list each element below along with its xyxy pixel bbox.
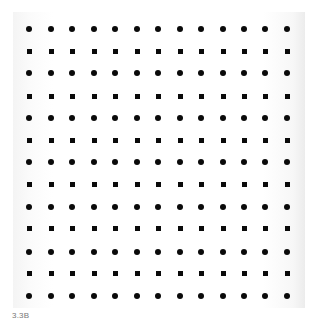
dot-mark [284, 204, 290, 210]
square-mark [242, 271, 247, 276]
dot-mark [177, 26, 183, 32]
dot-mark [48, 249, 54, 255]
square-mark [49, 182, 54, 187]
square-mark [242, 94, 247, 99]
square-mark [263, 94, 268, 99]
square-mark [242, 226, 247, 231]
square-mark [27, 94, 32, 99]
square-mark [70, 182, 75, 187]
dot-mark [220, 293, 226, 299]
dot-mark [198, 159, 204, 165]
square-mark [199, 182, 204, 187]
dot-mark [262, 115, 268, 121]
square-mark [263, 49, 268, 54]
square-mark [156, 49, 161, 54]
square-mark [135, 226, 140, 231]
dot-mark [220, 159, 226, 165]
dot-mark [262, 293, 268, 299]
square-mark [285, 138, 290, 143]
dot-mark [241, 115, 247, 121]
dot-mark [177, 293, 183, 299]
square-mark [135, 49, 140, 54]
square-mark [92, 138, 97, 143]
dot-mark [177, 159, 183, 165]
dot-mark [26, 293, 32, 299]
dot-mark [112, 26, 118, 32]
square-mark [263, 182, 268, 187]
square-mark [221, 49, 226, 54]
dot-mark [69, 204, 75, 210]
square-mark [242, 182, 247, 187]
dot-mark [198, 249, 204, 255]
dot-mark [26, 204, 32, 210]
square-mark [285, 226, 290, 231]
dot-mark [155, 293, 161, 299]
square-mark [135, 271, 140, 276]
square-mark [221, 271, 226, 276]
square-mark [27, 138, 32, 143]
dot-mark [48, 204, 54, 210]
dot-mark [155, 26, 161, 32]
square-mark [113, 182, 118, 187]
dot-mark [69, 293, 75, 299]
square-mark [178, 182, 183, 187]
square-mark [221, 94, 226, 99]
square-mark [285, 271, 290, 276]
dot-mark [134, 293, 140, 299]
dot-mark [241, 26, 247, 32]
dot-mark [284, 293, 290, 299]
dot-mark [262, 159, 268, 165]
dot-mark [134, 115, 140, 121]
square-mark [178, 271, 183, 276]
square-mark [49, 138, 54, 143]
square-mark [49, 271, 54, 276]
square-mark [285, 94, 290, 99]
dot-mark [177, 249, 183, 255]
dot-mark [262, 249, 268, 255]
dot-mark [48, 293, 54, 299]
dot-mark [177, 115, 183, 121]
square-mark [113, 138, 118, 143]
square-mark [92, 271, 97, 276]
dot-mark [26, 249, 32, 255]
dot-mark [155, 159, 161, 165]
dot-mark [284, 115, 290, 121]
dot-mark [198, 70, 204, 76]
square-mark [113, 271, 118, 276]
square-mark [70, 94, 75, 99]
dot-mark [220, 26, 226, 32]
dot-mark [91, 115, 97, 121]
dot-mark [134, 249, 140, 255]
square-mark [92, 182, 97, 187]
dot-mark [241, 293, 247, 299]
square-mark [70, 138, 75, 143]
dot-mark [112, 70, 118, 76]
square-mark [178, 94, 183, 99]
square-mark [156, 138, 161, 143]
dot-mark [177, 204, 183, 210]
square-mark [92, 49, 97, 54]
square-mark [221, 138, 226, 143]
square-mark [156, 94, 161, 99]
dot-mark [284, 249, 290, 255]
square-mark [113, 94, 118, 99]
square-mark [199, 226, 204, 231]
square-mark [135, 182, 140, 187]
dot-mark [91, 26, 97, 32]
dot-mark [262, 204, 268, 210]
dot-mark [26, 115, 32, 121]
square-mark [92, 226, 97, 231]
dot-mark [220, 70, 226, 76]
dot-mark [91, 70, 97, 76]
square-mark [70, 49, 75, 54]
dot-mark [69, 115, 75, 121]
dot-mark [91, 204, 97, 210]
dot-mark [91, 249, 97, 255]
dot-mark [241, 159, 247, 165]
dot-mark [26, 70, 32, 76]
square-mark [135, 138, 140, 143]
square-mark [285, 182, 290, 187]
square-mark [49, 94, 54, 99]
square-mark [221, 182, 226, 187]
dot-mark [198, 115, 204, 121]
